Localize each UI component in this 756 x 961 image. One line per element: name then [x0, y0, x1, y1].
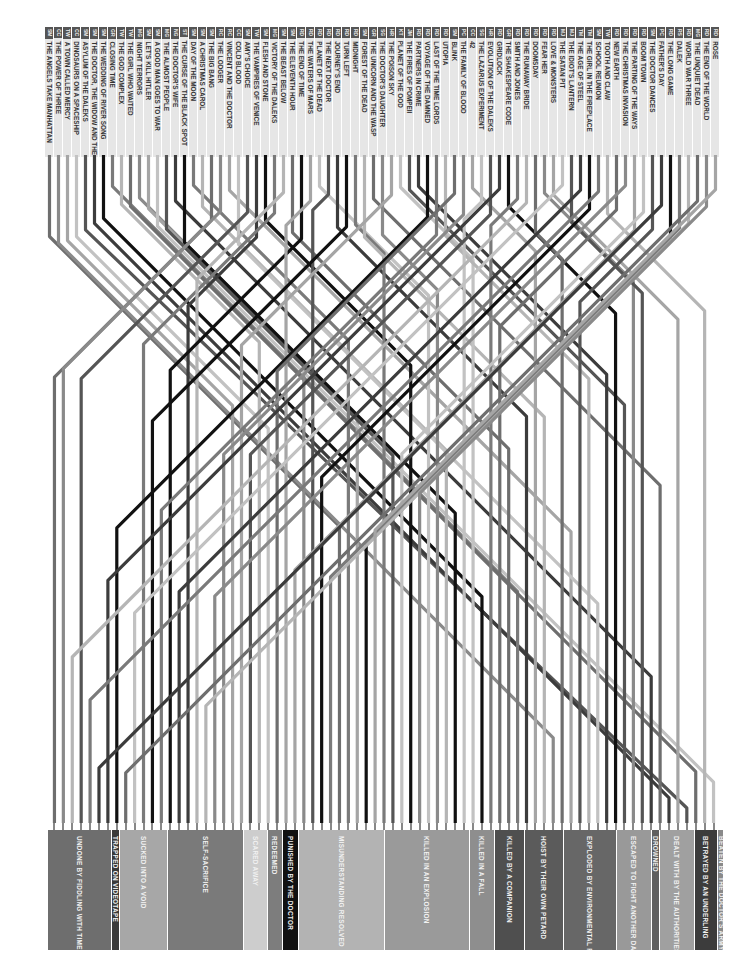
episode-column: RDROSE — [711, 27, 720, 157]
fate-category-label: KILLED BY A COMPANION — [506, 836, 513, 923]
episode-column: TWA TOWN CALLED MERCY — [63, 27, 72, 157]
episode-title: THE ELEVENTH HOUR — [288, 42, 297, 111]
tick-mark — [330, 823, 332, 830]
episode-title: DAY OF THE MOON — [189, 42, 198, 102]
episode-column: STTHE CURSE OF THE BLACK SPOT — [180, 27, 189, 157]
tick-mark — [151, 823, 153, 830]
writer-code: RC — [216, 27, 225, 38]
tick-mark — [454, 823, 456, 830]
writer-code: MG — [135, 27, 144, 39]
writer-code: RD — [441, 27, 450, 38]
episode-title: BLINK — [450, 42, 459, 62]
writer-code: GR — [108, 27, 117, 39]
episode-title: FLESH AND STONE — [261, 42, 270, 102]
writer-code: RD — [522, 27, 531, 38]
tick-mark — [62, 823, 64, 830]
tick-mark — [53, 823, 55, 830]
episode-title: DALEK — [675, 41, 684, 63]
fate-category-label: EXPLODED BY ENVIRONMENTAL FACTOR — [586, 836, 593, 950]
writer-code: SG — [477, 27, 486, 38]
tick-mark — [686, 823, 688, 830]
fate-category: ESCAPED TO FIGHT ANOTHER DAY — [617, 830, 652, 950]
episode-column: CCTHE POWER OF THREE — [54, 27, 63, 157]
episode-column: RDTHE PARTING OF THE WAYS — [630, 27, 639, 157]
writer-code: JM — [405, 27, 414, 38]
tick-mark — [579, 823, 581, 830]
episode-title: THE GIRL IN THE FIREPLACE — [585, 41, 594, 131]
writer-code: SM — [81, 27, 90, 39]
writer-code: RD — [414, 27, 423, 38]
writer-code: RD — [333, 27, 342, 38]
tick-mark — [205, 823, 207, 830]
tick-mark — [508, 823, 510, 830]
episode-fate-line — [90, 155, 598, 823]
episode-title: BOOM TOWN — [639, 41, 648, 82]
episode-title: THE PARTING OF THE WAYS — [630, 41, 639, 129]
tick-mark — [134, 823, 136, 830]
episode-title: THE CHRISTMAS INVASION — [621, 41, 630, 126]
fate-category: KILLED BY A COMPANION — [495, 830, 525, 950]
writer-code: SM — [90, 27, 99, 39]
fate-category-label: MISUNDERSTANDING RESOLVED — [338, 836, 345, 947]
writer-code: TW — [603, 27, 612, 39]
fate-category: DEALT WITH BY THE AUTHORITIES — [660, 830, 695, 950]
episode-column: RCTHE LODGER — [216, 27, 225, 157]
writer-code: RD — [432, 27, 441, 38]
episode-column: RDBOOM TOWN — [639, 27, 648, 157]
fate-category: BEATEN BY THE DOCTOR'S ARMY — [718, 830, 724, 950]
episode-title: VICTORY OF THE DALEKS — [270, 42, 279, 123]
tick-mark — [481, 823, 483, 830]
writer-code: RD — [639, 27, 648, 38]
tick-mark — [588, 823, 590, 830]
fate-category: DROWNED — [652, 830, 660, 950]
episode-fate-line — [144, 155, 275, 823]
episode-column: RDVOYAGE OF THE DAMNED — [423, 27, 432, 157]
writer-code: RD — [324, 27, 333, 38]
episode-title: LAST OF THE TIME LORDS — [432, 41, 441, 124]
episode-title: NIGHT TERRORS — [135, 42, 144, 95]
writer-code: RD — [612, 27, 621, 38]
episode-title: FOREST OF THE DEAD — [360, 42, 369, 113]
writer-code: RD — [531, 27, 540, 38]
writer-code: TW — [126, 27, 135, 39]
episode-title: THE CURSE OF THE BLACK SPOT — [180, 40, 189, 145]
episode-column: RDSMITH AND JONES — [513, 27, 522, 157]
tick-mark — [294, 823, 296, 830]
tick-strip — [45, 823, 720, 830]
episode-title: MIDNIGHT — [351, 41, 360, 73]
fate-category-label: REDEEMED — [271, 836, 278, 875]
tick-mark — [338, 823, 340, 830]
episode-column: MGNIGHT TERRORS — [135, 27, 144, 157]
episode-column: RDGRIDLOCK — [495, 27, 504, 157]
episode-title: THE GOD COMPLEX — [117, 42, 126, 105]
writer-code: CC — [468, 27, 477, 38]
episode-title: THE SHAKESPEARE CODE — [504, 42, 513, 125]
episode-column: RSDALEK — [675, 27, 684, 157]
writer-code: RD — [666, 27, 675, 38]
writer-code: RS — [675, 27, 684, 38]
fate-category: PUNISHED BY THE DOCTOR — [283, 830, 299, 950]
episode-column: MJTHE IDIOT'S LANTERN — [567, 27, 576, 157]
writer-code: SM — [198, 27, 207, 39]
tick-mark — [490, 823, 492, 830]
episode-title: PARTNERS IN CRIME — [414, 41, 423, 106]
episode-column: TWTHE GOD COMPLEX — [117, 27, 126, 157]
writer-code: TM — [576, 27, 585, 38]
writer-code: GR — [369, 27, 378, 39]
episode-title: THE AGE OF STEEL — [576, 41, 585, 102]
episode-column: RDNEW EARTH — [612, 27, 621, 157]
fate-category-label: DROWNED — [652, 836, 659, 872]
episode-column: RDTHE CHRISTMAS INVASION — [621, 27, 630, 157]
fate-category: HOIST BY THEIR OWN PETARD — [525, 830, 564, 950]
writer-code: SM — [45, 27, 54, 39]
episode-title: ROSE — [711, 41, 720, 59]
writer-code: RD — [540, 27, 549, 38]
tick-mark — [258, 823, 260, 830]
writer-code: MG — [162, 27, 171, 39]
tick-mark — [410, 823, 412, 830]
writer-code: RD — [711, 27, 720, 38]
tick-mark — [695, 823, 697, 830]
writer-code: SM — [594, 27, 603, 39]
episode-column: SMFLESH AND STONE — [261, 27, 270, 157]
episode-column: RDTHE END OF TIME — [297, 27, 306, 157]
